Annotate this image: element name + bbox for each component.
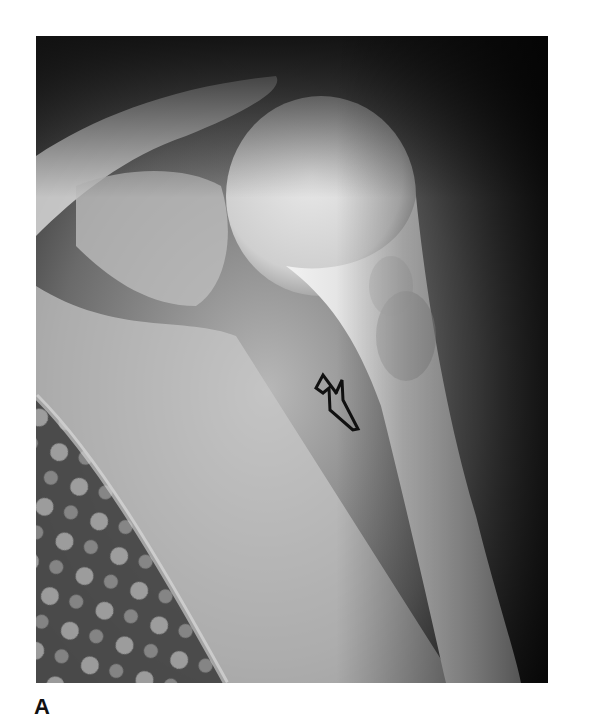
panel-label: A [34, 694, 50, 720]
xray-illustration [36, 36, 548, 683]
xray-image [36, 36, 548, 683]
